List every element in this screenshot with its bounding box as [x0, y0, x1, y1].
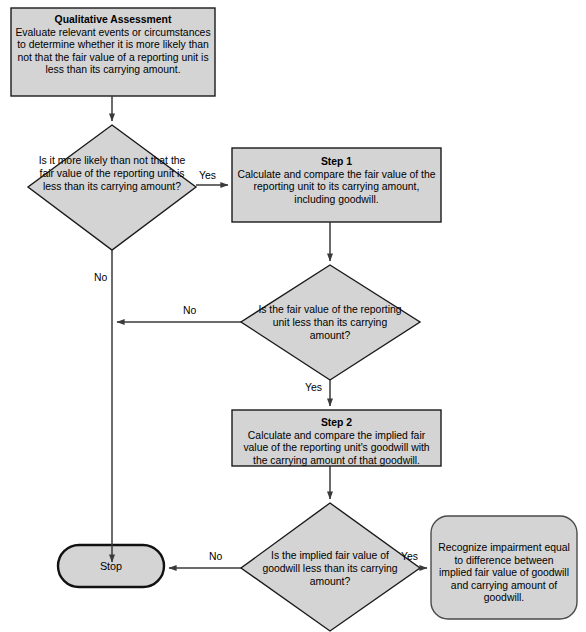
node-step-2[interactable]	[232, 410, 441, 466]
decision-1-text: Is it more likely than not that the fair…	[34, 154, 190, 193]
edge-label-decision2-yes: Yes	[305, 382, 322, 394]
decision-2-text: Is the fair value of the reporting unit …	[252, 303, 408, 342]
decision-3-text: Is the implied fair value of goodwill le…	[252, 549, 408, 588]
stop-label: Stop	[58, 560, 164, 572]
flowchart-canvas: Qualitative Assessment Evaluate relevant…	[0, 0, 586, 632]
edge-label-decision2-no: No	[183, 305, 196, 317]
node-qualitative-assessment[interactable]	[11, 8, 215, 96]
edge-label-decision3-no: No	[209, 551, 222, 563]
edge-label-decision3-yes: Yes	[401, 551, 418, 563]
node-recognize-impairment[interactable]	[431, 516, 577, 619]
edge-label-decision1-yes: Yes	[199, 170, 216, 182]
edge-label-decision1-no: No	[94, 272, 107, 284]
node-step-1[interactable]	[232, 148, 441, 222]
